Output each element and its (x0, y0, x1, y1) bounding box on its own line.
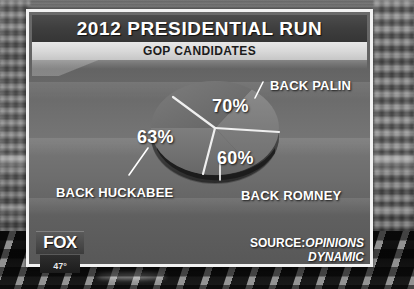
fox-logo: FOX (36, 231, 84, 254)
pie-value-label-huckabee: 63% (137, 127, 174, 148)
source-name-line1: OPINIONS (305, 236, 364, 250)
temperature-value: 47° (53, 261, 67, 271)
pie-chart (29, 12, 373, 267)
leader-line-huckabee (129, 148, 148, 175)
pie-category-label-palin: BACK PALIN (270, 78, 351, 93)
network-bug: FOX 47° (36, 231, 84, 273)
temperature-badge: 47° (40, 255, 80, 273)
studio-backdrop-right (374, 0, 414, 232)
pie-chart-svg (29, 12, 373, 267)
pie-category-label-romney: BACK ROMNEY (241, 188, 341, 203)
desk-reflection (96, 273, 166, 279)
source-name-line2: DYNAMIC (308, 250, 364, 264)
pie-category-label-huckabee: BACK HUCKABEE (56, 185, 173, 200)
fox-logo-text: FOX (43, 233, 76, 252)
source-prefix: SOURCE: (250, 236, 305, 250)
pie-value-label-romney: 60% (217, 148, 254, 169)
news-graphic-panel: 2012 PRESIDENTIAL RUN GOP CANDIDATES (26, 9, 373, 267)
tv-screenshot: 2012 PRESIDENTIAL RUN GOP CANDIDATES (0, 0, 414, 289)
source-credit: SOURCE:OPINIONS DYNAMIC (179, 236, 364, 264)
pie-value-label-palin: 70% (212, 96, 249, 117)
